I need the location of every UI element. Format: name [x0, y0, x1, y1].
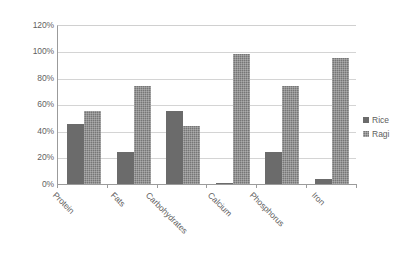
- y-axis-tick-label: 40%: [8, 127, 54, 136]
- y-axis-tick-label: 60%: [8, 100, 54, 109]
- bar-rice-carbohydrates: [166, 111, 183, 184]
- bar-rice-phosphorus: [265, 152, 282, 184]
- legend: Rice Ragi: [363, 113, 389, 141]
- bar-rice-calcium: [216, 183, 233, 184]
- x-axis-tick: [157, 184, 158, 188]
- x-axis-tick: [107, 184, 108, 188]
- x-axis-tick: [57, 184, 58, 188]
- bar-ragi-protein: [84, 111, 101, 184]
- bars-layer: [58, 25, 356, 184]
- gridline-0-baseline: [58, 184, 356, 185]
- bar-ragi-phosphorus: [282, 86, 299, 184]
- legend-label: Ragi: [372, 127, 389, 141]
- y-axis-tick-label: 20%: [8, 153, 54, 162]
- legend-item-ragi[interactable]: Ragi: [363, 127, 389, 141]
- legend-swatch-icon: [363, 131, 369, 137]
- bar-chart: 120% 100% 80% 60% 40% 20% 0%: [0, 0, 412, 262]
- bar-rice-fats: [117, 152, 134, 184]
- bar-rice-iron: [315, 179, 332, 184]
- y-axis-tick-label: 80%: [8, 74, 54, 83]
- y-axis-tick-label: 120%: [8, 21, 54, 30]
- y-axis-tick-label: 100%: [8, 47, 54, 56]
- x-axis-tick: [256, 184, 257, 188]
- bar-ragi-fats: [134, 86, 151, 184]
- x-axis-tick: [306, 184, 307, 188]
- legend-item-rice[interactable]: Rice: [363, 113, 389, 127]
- legend-swatch-icon: [363, 117, 369, 123]
- bar-ragi-carbohydrates: [183, 126, 200, 184]
- bar-ragi-calcium: [233, 54, 250, 184]
- x-axis-tick: [356, 184, 357, 188]
- bar-rice-protein: [67, 124, 84, 184]
- x-axis-tick: [206, 184, 207, 188]
- y-axis-tick-label: 0%: [8, 180, 54, 189]
- legend-label: Rice: [372, 113, 389, 127]
- bar-ragi-iron: [332, 58, 349, 184]
